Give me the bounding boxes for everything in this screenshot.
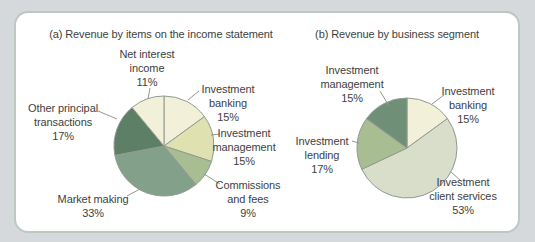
- chart-b-title: (b) Revenue by business segment: [315, 28, 479, 40]
- pie-label-investment-banking: Investmentbanking15%: [202, 83, 255, 123]
- page-background: Investmentbanking15%Investmentmanagement…: [0, 0, 535, 242]
- leader-line-investment-banking: [188, 91, 199, 100]
- leader-line-other-principal-transactions: [98, 111, 117, 119]
- pie-label-other-principal-transactions: Other principaltransactions17%: [28, 102, 98, 142]
- pie-label-investment-lending: Investmentlending17%: [296, 135, 349, 175]
- pie-label-investment-banking: Investmentbanking15%: [442, 85, 495, 125]
- chart-a-title: (a) Revenue by items on the income state…: [49, 28, 273, 40]
- pie-label-net-interest-income: Net interestincome11%: [119, 48, 174, 88]
- pie-label-investment-management: Investmentmanagement15%: [212, 127, 275, 167]
- pie-label-investment-client-services: Investmentclient services53%: [429, 176, 497, 216]
- leader-line-net-interest-income: [148, 88, 150, 99]
- pie-label-investment-management: Investmentmanagement15%: [320, 64, 383, 104]
- pies-group: Investmentbanking15%Investmentmanagement…: [28, 48, 497, 219]
- leader-line-market-making: [127, 189, 140, 196]
- pie-b: Investmentbanking15%Investmentclient ser…: [296, 64, 498, 216]
- pie-charts-figure: Investmentbanking15%Investmentmanagement…: [0, 0, 535, 242]
- pie-label-commissions-and-fees: Commissionsand fees9%: [216, 179, 282, 219]
- pie-label-market-making: Market making33%: [58, 193, 129, 219]
- pie-a: Investmentbanking15%Investmentmanagement…: [28, 48, 281, 219]
